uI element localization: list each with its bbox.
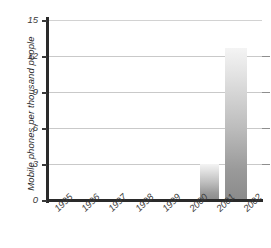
y-tick-label-15: 15 [14, 14, 38, 25]
right-tick-9 [262, 92, 270, 93]
bar-2002[interactable] [225, 48, 247, 200]
y-tick-mark-3 [42, 164, 47, 166]
y-tick-label-9: 9 [14, 86, 38, 97]
right-tick-6 [262, 128, 270, 129]
y-tick-mark-9 [42, 92, 47, 94]
y-tick-mark-12 [42, 56, 47, 58]
y-tick-label-12: 12 [14, 50, 38, 61]
gridline-15 [48, 20, 262, 21]
bar-chart: Mobile phones per thousand people 15 12 … [0, 0, 271, 248]
right-tick-3 [262, 164, 270, 165]
y-tick-mark-6 [42, 128, 47, 130]
plot-area [48, 20, 262, 200]
y-tick-label-0: 0 [14, 194, 38, 205]
y-tick-mark-0 [42, 200, 47, 202]
y-axis-line [46, 17, 49, 203]
y-tick-mark-15 [42, 20, 47, 22]
right-tick-12 [262, 56, 270, 57]
y-tick-label-6: 6 [14, 122, 38, 133]
y-tick-label-3: 3 [14, 158, 38, 169]
